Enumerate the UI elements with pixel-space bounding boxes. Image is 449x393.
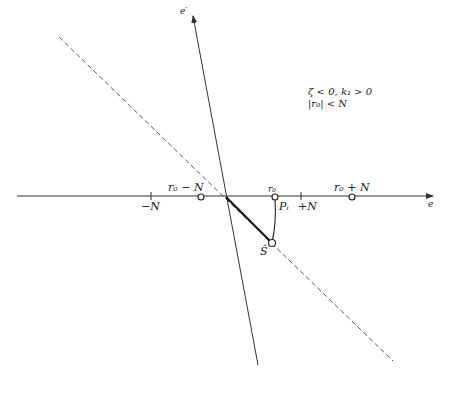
diagram-canvas [0, 0, 449, 393]
label-plus-n: +N [298, 201, 317, 212]
label-e-prime: e′ [180, 7, 187, 16]
arc-r0-to-s [272, 199, 275, 242]
label-r0-plus-n: r₀ + N [334, 182, 370, 193]
point-r0 [272, 194, 278, 200]
point-r0-plus-n [349, 194, 355, 200]
point-s [269, 240, 276, 247]
label-p-i: Pᵢ [279, 201, 289, 212]
condition-line-1: ζ < 0, k₁ > 0 [308, 86, 372, 98]
point-r0-minus-n [198, 194, 204, 200]
label-e: e [428, 200, 433, 209]
condition-text: ζ < 0, k₁ > 0 |r₀| < N [308, 86, 372, 110]
label-s: Ŝ [260, 246, 268, 257]
label-minus-n: −N [141, 201, 160, 212]
label-r0-minus-n: r₀ − N [168, 182, 204, 193]
origin-to-s-segment [226, 197, 270, 241]
condition-line-2: |r₀| < N [308, 98, 372, 110]
label-r0: r₀ [268, 185, 276, 194]
